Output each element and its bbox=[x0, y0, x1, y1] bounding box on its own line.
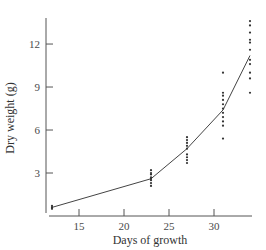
data-point bbox=[186, 139, 188, 141]
data-point bbox=[51, 205, 53, 207]
data-point bbox=[249, 77, 251, 79]
data-point bbox=[249, 24, 251, 26]
data-point bbox=[186, 153, 188, 155]
y-tick-label: 12 bbox=[29, 38, 40, 50]
data-point bbox=[249, 49, 251, 51]
data-point bbox=[222, 107, 224, 109]
data-point bbox=[186, 142, 188, 144]
scatter-chart: 3691215202530 Days of growth Dry weight … bbox=[0, 0, 266, 250]
data-point bbox=[186, 148, 188, 150]
data-point bbox=[186, 145, 188, 147]
y-tick-label: 6 bbox=[35, 124, 41, 136]
data-point bbox=[249, 72, 251, 74]
x-axis-title: Days of growth bbox=[113, 233, 188, 247]
y-axis-title: Dry weight (g) bbox=[3, 82, 17, 153]
data-point bbox=[222, 92, 224, 94]
data-point bbox=[249, 42, 251, 44]
data-point bbox=[249, 20, 251, 22]
data-point bbox=[222, 138, 224, 140]
x-tick-label: 25 bbox=[164, 220, 176, 232]
axis-ticks: 3691215202530 bbox=[29, 38, 220, 232]
x-tick-label: 15 bbox=[74, 220, 86, 232]
data-point bbox=[222, 72, 224, 74]
y-tick-label: 3 bbox=[35, 167, 41, 179]
data-point bbox=[150, 172, 152, 174]
data-point bbox=[150, 182, 152, 184]
data-point bbox=[249, 31, 251, 33]
data-point bbox=[222, 99, 224, 101]
data-point bbox=[186, 159, 188, 161]
data-point bbox=[249, 63, 251, 65]
data-point bbox=[222, 120, 224, 122]
data-point bbox=[249, 39, 251, 41]
mean-trend-line bbox=[52, 56, 250, 208]
data-point bbox=[186, 136, 188, 138]
data-point bbox=[150, 185, 152, 187]
data-point bbox=[222, 116, 224, 118]
y-tick-label: 9 bbox=[35, 81, 41, 93]
data-points bbox=[51, 20, 251, 210]
data-point bbox=[222, 125, 224, 127]
data-point bbox=[249, 92, 251, 94]
data-point bbox=[222, 112, 224, 114]
x-tick-label: 30 bbox=[209, 220, 221, 232]
axes bbox=[46, 18, 252, 216]
trend-polyline bbox=[52, 56, 250, 208]
data-point bbox=[150, 176, 152, 178]
data-point bbox=[222, 95, 224, 97]
data-point bbox=[222, 103, 224, 105]
data-point bbox=[186, 156, 188, 158]
x-tick-label: 20 bbox=[119, 220, 131, 232]
data-point bbox=[150, 169, 152, 171]
data-point bbox=[249, 59, 251, 61]
data-point bbox=[186, 162, 188, 164]
